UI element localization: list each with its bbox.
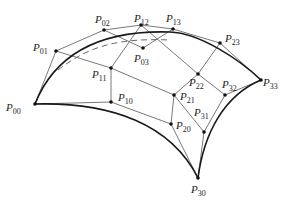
hidden-curve <box>58 40 170 70</box>
control-point-p03 <box>141 46 145 50</box>
label-p22: P22 <box>188 76 204 91</box>
control-point-p31 <box>202 130 206 134</box>
label-p11: P11 <box>91 68 106 83</box>
label-p33: P33 <box>262 76 278 91</box>
control-edge <box>111 102 171 124</box>
label-p10: P10 <box>117 91 133 106</box>
control-point-p01 <box>54 49 58 53</box>
control-point-p13 <box>171 27 175 31</box>
bezier-patch-diagram: P00P01P02P03P10P11P12P13P20P21P22P23P30P… <box>0 0 290 206</box>
patch-boundary <box>35 32 261 178</box>
label-p21: P21 <box>179 90 195 105</box>
control-point-p02 <box>102 28 106 32</box>
label-p02: P02 <box>94 13 110 28</box>
boundary-curve <box>170 32 261 80</box>
label-p32: P32 <box>221 78 237 93</box>
label-p20: P20 <box>175 119 191 134</box>
control-edge <box>173 29 220 43</box>
label-p30: P30 <box>190 183 206 198</box>
label-p01: P01 <box>32 41 48 56</box>
label-p23: P23 <box>224 32 240 47</box>
control-point-p32 <box>223 93 227 97</box>
boundary-curve <box>198 80 261 178</box>
label-p13: P13 <box>165 12 181 27</box>
control-edge <box>171 95 174 124</box>
control-point-p20 <box>169 122 173 126</box>
label-p03: P03 <box>133 52 149 67</box>
control-point-p00 <box>33 102 37 106</box>
control-point-p23 <box>218 41 222 45</box>
control-point-p22 <box>196 72 200 76</box>
boundary-curve <box>35 104 198 178</box>
label-p31: P31 <box>193 106 209 121</box>
control-point-p10 <box>109 100 113 104</box>
boundary-curve <box>35 32 170 104</box>
label-p00: P00 <box>5 101 21 116</box>
control-point-p11 <box>109 66 113 70</box>
control-net <box>35 25 261 178</box>
control-point-p30 <box>196 176 200 180</box>
label-p12: P12 <box>133 12 149 27</box>
control-points <box>33 23 263 180</box>
control-point-p21 <box>172 93 176 97</box>
